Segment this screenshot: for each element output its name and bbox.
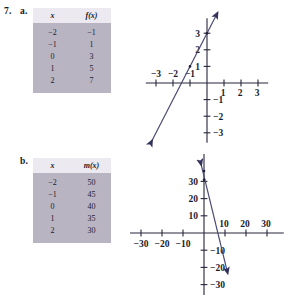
- cell-x: 0: [33, 201, 72, 213]
- data-point: [203, 178, 206, 181]
- y-tick-label: −2: [213, 112, 223, 122]
- y-tick-label: −30: [210, 280, 225, 290]
- exercise-part-b: b. x m(x) −2 50 −1 45 0 40 1 35: [0, 148, 300, 296]
- x-tick-label: 2: [238, 88, 243, 98]
- y-tick-label: 20: [189, 194, 199, 204]
- cell-x: 0: [33, 51, 72, 63]
- x-tick-label: −20: [155, 239, 170, 249]
- table-row: −2 −1: [33, 23, 111, 39]
- y-tick-label: 1: [195, 62, 200, 72]
- cell-x: −1: [33, 189, 72, 201]
- cell-x: 2: [33, 75, 72, 94]
- x-tick-label: 3: [255, 88, 260, 98]
- cell-x: −2: [33, 173, 72, 189]
- exercise-number: 7.: [4, 6, 12, 16]
- part-b-label: b.: [20, 156, 28, 166]
- x-tick-label: −3: [151, 69, 161, 79]
- x-tick-label: −10: [176, 239, 191, 249]
- coordinate-graph-a: −3−2−1123−3−2−1123: [130, 0, 300, 148]
- y-tick-label: −3: [213, 128, 223, 138]
- cell-mx: 30: [72, 225, 111, 244]
- table-row: −1 1: [33, 39, 111, 51]
- table-row: 2 7: [33, 75, 111, 94]
- data-point: [203, 170, 206, 173]
- y-tick-label: −1: [213, 95, 223, 105]
- cell-x: 1: [33, 213, 72, 225]
- cell-x: 2: [33, 225, 72, 244]
- cell-x: −2: [33, 23, 72, 39]
- cell-mx: 50: [72, 173, 111, 189]
- y-tick-label: −20: [210, 263, 225, 273]
- function-table-a: x f(x) −2 −1 −1 1 0 3 1 5 2 7: [33, 8, 111, 93]
- column-header-x: x: [33, 158, 72, 173]
- cell-fx: −1: [72, 23, 111, 39]
- table-header-row: x m(x): [33, 158, 111, 173]
- data-point: [189, 65, 192, 68]
- x-tick-label: −30: [134, 239, 149, 249]
- table-row: −2 50: [33, 173, 111, 189]
- cell-mx: 35: [72, 213, 111, 225]
- graph-b-canvas: −30−20−10102030−30−20−10102030: [130, 148, 300, 296]
- part-a-label: a.: [20, 6, 28, 16]
- table-row: 1 35: [33, 213, 111, 225]
- cell-fx: 1: [72, 39, 111, 51]
- cell-fx: 3: [72, 51, 111, 63]
- x-tick-label: 20: [240, 219, 250, 229]
- table-row: 2 30: [33, 225, 111, 244]
- cell-x: −1: [33, 39, 72, 51]
- graph-a-canvas: −3−2−1123−3−2−1123: [130, 0, 300, 148]
- cell-x: 1: [33, 63, 72, 75]
- x-tick-label: 10: [219, 219, 229, 229]
- column-header-fx: f(x): [72, 8, 111, 23]
- cell-fx: 5: [72, 63, 111, 75]
- cell-mx: 40: [72, 201, 111, 213]
- column-header-x: x: [33, 8, 72, 23]
- cell-mx: 45: [72, 189, 111, 201]
- table-header-row: x f(x): [33, 8, 111, 23]
- table-row: 0 3: [33, 51, 111, 63]
- table-row: −1 45: [33, 189, 111, 201]
- function-table-b: x m(x) −2 50 −1 45 0 40 1 35 2 3: [33, 158, 111, 243]
- data-point: [206, 32, 209, 35]
- x-tick-label: 30: [261, 219, 271, 229]
- cell-fx: 7: [72, 75, 111, 94]
- y-tick-label: 10: [189, 211, 199, 221]
- table-row: 1 5: [33, 63, 111, 75]
- y-tick-label: 3: [195, 29, 200, 39]
- exercise-part-a: 7. a. x f(x) −2 −1 −1 1 0 3 1 5: [0, 0, 300, 148]
- column-header-mx: m(x): [72, 158, 111, 173]
- table-row: 0 40: [33, 201, 111, 213]
- coordinate-graph-b: −30−20−10102030−30−20−10102030: [130, 148, 300, 296]
- x-tick-label: −2: [168, 69, 178, 79]
- y-tick-label: 30: [189, 177, 199, 187]
